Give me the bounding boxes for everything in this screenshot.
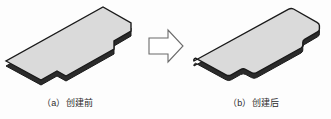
arrow-right-icon <box>149 30 183 62</box>
plate-filleted-corners <box>194 8 320 80</box>
caption-panel-b: （b）创建后 <box>228 97 279 109</box>
transformation-arrow <box>149 30 183 62</box>
caption-panel-a: （a）创建前 <box>42 97 93 109</box>
plate-a-top-face <box>6 7 131 80</box>
plate-sharp-corners <box>6 7 131 85</box>
figure-container: （a）创建前 （b）创建后 <box>0 0 331 119</box>
plate-b-top-face <box>194 8 320 75</box>
